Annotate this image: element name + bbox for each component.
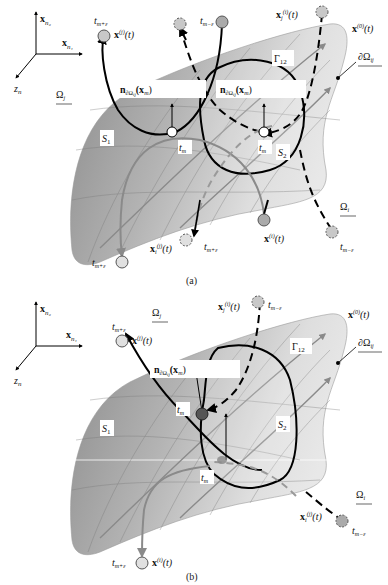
figure-canvas: xn₂ xn₁ zn	[0, 0, 388, 585]
endpoint-dashed-top	[174, 18, 186, 30]
label-omega-i: Ωi	[340, 201, 349, 213]
axis-label-xn1-b: xn₁	[66, 329, 77, 343]
label-d-omega-ij: ∂Ωij	[358, 51, 374, 63]
label-tmme-right-b: tm−ε	[352, 525, 366, 537]
label-tmme-right: tm−ε	[340, 241, 354, 253]
label-omega-i-b: Ωi	[356, 489, 365, 501]
endpoint-xji	[316, 6, 328, 18]
endpoint-xij-b	[336, 515, 348, 527]
label-d-omega-ij-b: ∂Ωij	[358, 337, 374, 349]
point-tm-left	[167, 127, 177, 137]
boundary-dot-b	[336, 361, 340, 365]
endpoint-xi-b	[136, 557, 148, 569]
label-tmpe-bottom-b: tm+ε	[112, 557, 126, 569]
point-tm-upper-b	[196, 408, 208, 420]
endpoint-xj-tmpe	[98, 30, 110, 42]
label-xj-t: x(j)(t)	[114, 29, 135, 41]
label-xij-t: xi(j)(t)	[150, 243, 172, 255]
boundary-dot	[336, 76, 340, 80]
endpoint-xi	[258, 214, 270, 226]
label-omega-j-b: Ωj	[152, 307, 161, 319]
label-xji-t-b: xj(i)(t)	[218, 301, 240, 313]
label-xij-t-b: xi(j)(t)	[300, 511, 322, 523]
axis-label-zn-b: zn	[13, 375, 22, 388]
endpoint-xij	[180, 234, 192, 246]
endpoint-tmme-right	[326, 226, 338, 238]
axis-label-xn1: xn₁	[62, 37, 73, 51]
endpoint-tmme-top	[216, 16, 228, 28]
axis-label-zn: zn	[13, 83, 22, 96]
axis-label-xn2-b: xn₂	[40, 303, 52, 317]
label-tmme-top: tm−ε	[200, 15, 214, 27]
endpoint-xj-b	[116, 335, 128, 347]
label-tmpe-top-b: tm+ε	[112, 321, 126, 333]
label-xi-t-b: x(i)(t)	[152, 557, 173, 569]
caption-a: (a)	[186, 275, 197, 287]
label-omega-j: Ωj	[56, 89, 65, 101]
axis-label-xn2: xn₂	[40, 13, 52, 27]
label-tmme-top-b: tm−ε	[268, 299, 282, 311]
label-tmpe-top: tm+ε	[94, 15, 108, 27]
panel-b: xn₂ xn₁ zn	[13, 296, 382, 583]
point-tm-lower-b	[217, 456, 227, 464]
endpoint-xji-b	[252, 296, 264, 308]
panel-a: xn₂ xn₁ zn	[13, 6, 382, 287]
endpoint-tmpe-bottom	[116, 256, 128, 268]
label-xj-t-b: x(j)(t)	[132, 335, 153, 347]
label-xji-t: xj(i)(t)	[276, 9, 298, 21]
label-tmpe-mid: tm+ε	[204, 241, 218, 253]
label-xi-t: x(i)(t)	[264, 233, 285, 245]
point-tm-right	[259, 127, 269, 137]
caption-b: (b)	[186, 571, 198, 583]
label-x0-t-b: x(0)(t)	[348, 309, 370, 321]
label-x0-t: x(0)(t)	[352, 23, 374, 35]
